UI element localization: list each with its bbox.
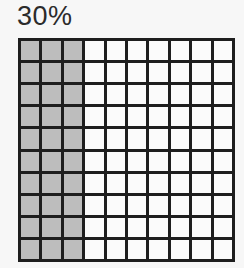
shaded-cell <box>42 218 60 237</box>
empty-cell <box>171 196 189 215</box>
shaded-cell <box>64 174 82 193</box>
empty-cell <box>149 218 167 237</box>
percent-label: 30% <box>17 1 73 31</box>
empty-cell <box>214 63 232 82</box>
shaded-cell <box>42 63 60 82</box>
empty-cell <box>192 174 210 193</box>
empty-cell <box>107 240 125 259</box>
shaded-cell <box>42 240 60 259</box>
shaded-cell <box>64 240 82 259</box>
shaded-cell <box>64 152 82 171</box>
hundred-grid <box>18 38 235 262</box>
shaded-cell <box>64 63 82 82</box>
empty-cell <box>214 240 232 259</box>
shaded-cell <box>21 240 39 259</box>
empty-cell <box>171 129 189 148</box>
empty-cell <box>192 41 210 60</box>
shaded-cell <box>21 152 39 171</box>
empty-cell <box>171 240 189 259</box>
empty-cell <box>214 41 232 60</box>
shaded-cell <box>64 85 82 104</box>
empty-cell <box>107 129 125 148</box>
empty-cell <box>214 218 232 237</box>
shaded-cell <box>21 218 39 237</box>
empty-cell <box>171 85 189 104</box>
empty-cell <box>85 41 103 60</box>
empty-cell <box>214 174 232 193</box>
empty-cell <box>107 218 125 237</box>
empty-cell <box>149 63 167 82</box>
empty-cell <box>171 152 189 171</box>
empty-cell <box>171 41 189 60</box>
empty-cell <box>107 152 125 171</box>
empty-cell <box>149 129 167 148</box>
empty-cell <box>171 174 189 193</box>
shaded-cell <box>64 107 82 126</box>
empty-cell <box>128 85 146 104</box>
empty-cell <box>85 152 103 171</box>
empty-cell <box>149 107 167 126</box>
empty-cell <box>192 129 210 148</box>
empty-cell <box>85 129 103 148</box>
empty-cell <box>214 196 232 215</box>
empty-cell <box>85 218 103 237</box>
empty-cell <box>128 152 146 171</box>
empty-cell <box>214 129 232 148</box>
shaded-cell <box>21 107 39 126</box>
empty-cell <box>149 174 167 193</box>
empty-cell <box>149 240 167 259</box>
empty-cell <box>107 85 125 104</box>
shaded-cell <box>64 196 82 215</box>
empty-cell <box>149 41 167 60</box>
empty-cell <box>128 240 146 259</box>
shaded-cell <box>42 129 60 148</box>
empty-cell <box>85 85 103 104</box>
shaded-cell <box>64 41 82 60</box>
empty-cell <box>214 107 232 126</box>
empty-cell <box>171 63 189 82</box>
empty-cell <box>149 196 167 215</box>
shaded-cell <box>21 85 39 104</box>
empty-cell <box>107 174 125 193</box>
empty-cell <box>107 41 125 60</box>
empty-cell <box>171 107 189 126</box>
empty-cell <box>128 174 146 193</box>
empty-cell <box>85 63 103 82</box>
shaded-cell <box>42 41 60 60</box>
empty-cell <box>192 85 210 104</box>
shaded-cell <box>21 196 39 215</box>
shaded-cell <box>42 107 60 126</box>
shaded-cell <box>64 129 82 148</box>
empty-cell <box>171 218 189 237</box>
shaded-cell <box>21 174 39 193</box>
shaded-cell <box>21 63 39 82</box>
empty-cell <box>107 63 125 82</box>
shaded-cell <box>64 218 82 237</box>
empty-cell <box>192 218 210 237</box>
empty-cell <box>192 240 210 259</box>
shaded-cell <box>42 174 60 193</box>
empty-cell <box>192 107 210 126</box>
empty-cell <box>192 196 210 215</box>
empty-cell <box>128 218 146 237</box>
empty-cell <box>149 85 167 104</box>
empty-cell <box>192 63 210 82</box>
empty-cell <box>85 174 103 193</box>
empty-cell <box>149 152 167 171</box>
shaded-cell <box>42 196 60 215</box>
empty-cell <box>128 196 146 215</box>
empty-cell <box>85 240 103 259</box>
empty-cell <box>214 152 232 171</box>
empty-cell <box>128 107 146 126</box>
shaded-cell <box>21 41 39 60</box>
empty-cell <box>85 196 103 215</box>
shaded-cell <box>42 85 60 104</box>
empty-cell <box>107 196 125 215</box>
empty-cell <box>192 152 210 171</box>
empty-cell <box>107 107 125 126</box>
shaded-cell <box>42 152 60 171</box>
empty-cell <box>214 85 232 104</box>
empty-cell <box>128 41 146 60</box>
shaded-cell <box>21 129 39 148</box>
empty-cell <box>128 63 146 82</box>
